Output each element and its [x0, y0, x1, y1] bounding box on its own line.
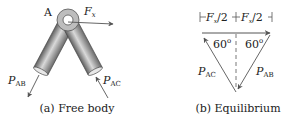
equilibrium-pab-label: PAB [255, 65, 274, 79]
pin-hole [63, 15, 73, 25]
dim-left-label: Fx/2 [205, 11, 228, 24]
force-x-label: Fx [83, 5, 96, 19]
caption-equilibrium: (b) Equilibrium [195, 102, 281, 115]
joint-label: A [43, 6, 53, 19]
equilibrium-pac-label: PAC [197, 65, 216, 79]
panel-equilibrium: Fx/2 Fx/2 60o 60o PAC PAB (b) Equilibriu… [195, 10, 281, 115]
angle-right-label: 60o [245, 37, 263, 51]
panel-free-body: A Fx PAB PAC (a) Free body [7, 5, 121, 115]
force-ab-arrow [28, 75, 39, 97]
caption-free-body: (a) Free body [40, 102, 116, 115]
force-ac-label: PAC [102, 74, 121, 88]
angle-left-label: 60o [213, 37, 231, 51]
dim-right-label: Fx/2 [240, 11, 263, 24]
force-ab-label: PAB [7, 74, 26, 88]
figure-canvas: A Fx PAB PAC (a) Free body Fx/2 Fx/2 60o… [0, 0, 290, 121]
